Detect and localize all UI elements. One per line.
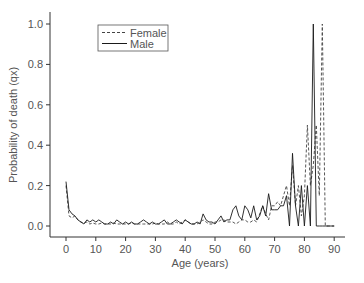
x-tick-label: 50	[209, 243, 221, 255]
female-series-line	[66, 24, 334, 226]
x-tick-label: 80	[298, 243, 310, 255]
x-tick-label: 40	[179, 243, 191, 255]
x-tick-label: 10	[90, 243, 102, 255]
mortality-chart: 0.00.20.40.60.81.0 0102030405060708090 F…	[0, 0, 364, 283]
x-axis-label: Age (years)	[172, 257, 229, 269]
y-tick-label: 0.2	[28, 180, 43, 192]
y-ticks: 0.00.20.40.60.81.0	[28, 18, 50, 232]
x-tick-label: 20	[119, 243, 131, 255]
x-tick-label: 90	[328, 243, 340, 255]
legend: Female Male	[98, 25, 168, 51]
legend-male-label: Male	[130, 38, 154, 50]
y-tick-label: 0.0	[28, 220, 43, 232]
y-tick-label: 0.6	[28, 99, 43, 111]
x-tick-label: 70	[268, 243, 280, 255]
x-tick-label: 60	[239, 243, 251, 255]
x-tick-label: 30	[149, 243, 161, 255]
x-ticks: 0102030405060708090	[63, 237, 340, 255]
male-series-line	[66, 24, 334, 226]
chart-container: 0.00.20.40.60.81.0 0102030405060708090 F…	[0, 0, 364, 283]
x-tick-label: 0	[63, 243, 69, 255]
y-tick-label: 0.4	[28, 139, 43, 151]
y-axis-label: Probability of death (qx)	[7, 67, 19, 183]
y-tick-label: 0.8	[28, 58, 43, 70]
y-tick-label: 1.0	[28, 18, 43, 30]
